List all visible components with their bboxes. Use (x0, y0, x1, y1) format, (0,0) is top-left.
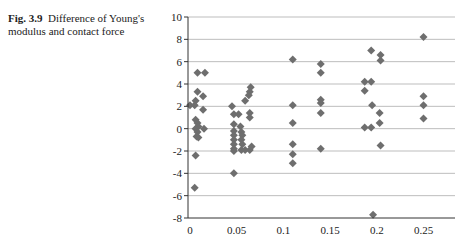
data-point (377, 57, 385, 65)
data-point (317, 109, 325, 117)
data-point (420, 115, 428, 123)
data-point (193, 88, 201, 96)
x-tick-label: 0.2 (370, 224, 384, 236)
y-tick-label: -4 (173, 167, 183, 179)
data-point (367, 47, 375, 55)
data-points (186, 33, 428, 219)
x-tick-label: 0.25 (414, 224, 434, 236)
y-tick-label: 2 (177, 100, 183, 112)
x-axis-ticks: 00.050.10.150.20.25 (187, 224, 433, 236)
data-point (367, 124, 375, 132)
y-tick-label: -8 (173, 212, 183, 224)
y-tick-label: 0 (177, 123, 183, 135)
data-point (376, 109, 384, 117)
y-tick-label: -6 (173, 190, 183, 202)
data-point (289, 150, 297, 158)
y-tick-label: 10 (171, 11, 183, 23)
data-point (235, 110, 243, 118)
data-point (317, 69, 325, 77)
data-point (289, 55, 297, 63)
data-point (289, 140, 297, 148)
data-point (230, 169, 238, 177)
x-tick-label: 0.15 (320, 224, 340, 236)
x-tick-label: 0.1 (277, 224, 291, 236)
data-point (199, 92, 207, 100)
data-point (317, 145, 325, 153)
data-point (289, 159, 297, 167)
scatter-chart: -8-6-4-20246810 00.050.10.150.20.25 (0, 0, 473, 242)
data-point (192, 151, 200, 159)
data-point (376, 119, 384, 127)
data-point (317, 60, 325, 68)
data-point (191, 184, 199, 192)
data-point (246, 114, 254, 122)
y-tick-label: -2 (173, 145, 182, 157)
data-point (420, 33, 428, 41)
data-point (368, 101, 376, 109)
data-point (228, 102, 236, 110)
y-tick-label: 4 (177, 78, 183, 90)
data-point (367, 78, 375, 86)
data-point (420, 101, 428, 109)
data-point (289, 101, 297, 109)
y-tick-label: 6 (177, 56, 183, 68)
x-tick-label: 0.05 (227, 224, 247, 236)
y-tick-label: 8 (177, 33, 183, 45)
data-point (420, 92, 428, 100)
data-point (289, 119, 297, 127)
data-point (377, 141, 385, 149)
data-point (201, 69, 209, 77)
data-point (361, 87, 369, 95)
x-tick-label: 0 (187, 224, 193, 236)
y-axis-ticks: -8-6-4-20246810 (171, 11, 188, 224)
data-point (193, 69, 201, 77)
data-point (369, 211, 377, 219)
data-point (199, 106, 207, 114)
